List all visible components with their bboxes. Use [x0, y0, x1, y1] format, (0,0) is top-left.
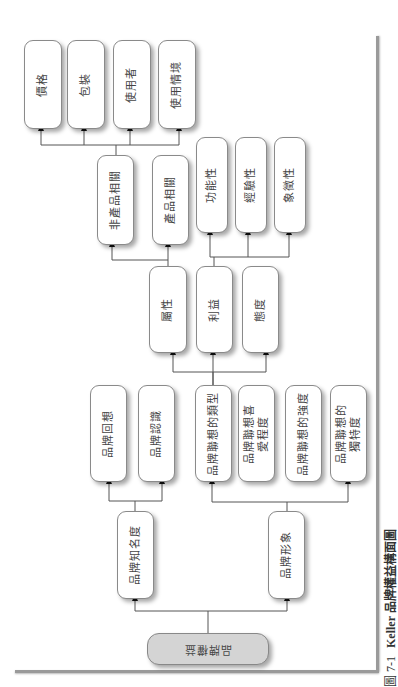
node-brand-awareness: 品牌知名度	[117, 511, 154, 599]
figure-title: Keller 品牌權益構面圖	[384, 529, 398, 648]
node-label: 使用者	[125, 67, 139, 103]
node-label: 象徵性	[283, 167, 297, 203]
node-label: 功能性	[205, 167, 219, 203]
node-brand-equity: 品牌權益	[147, 633, 269, 665]
node-association-strength: 品牌聯想的強度	[285, 385, 322, 482]
node-label: 品牌認識	[150, 410, 164, 458]
node-brand-recognition: 品牌認識	[138, 385, 175, 482]
node-brand-recall: 品牌回想	[90, 385, 127, 482]
node-label: 品牌回想	[102, 410, 116, 458]
node-association-uniqueness: 品牌聯想的 獨特度	[330, 385, 367, 482]
node-user: 使用者	[113, 40, 151, 129]
node-packaging: 包裝	[67, 40, 105, 129]
node-label: 經驗性	[244, 167, 258, 203]
node-label: 品牌形象	[280, 531, 294, 579]
node-association-type: 品牌聯想的類型	[195, 385, 232, 482]
figure-caption: 圖 7-1Keller 品牌權益構面圖	[381, 529, 398, 687]
node-label: 品牌聯想的強度	[297, 392, 311, 476]
node-usage-situation: 使用情境	[158, 40, 196, 129]
node-label: 品牌權益	[184, 642, 232, 656]
node-label: 包裝	[79, 73, 93, 97]
node-label: 產品相關	[164, 176, 178, 224]
node-label: 品牌聯想的 獨特度	[335, 404, 363, 464]
node-attitudes: 態度	[242, 266, 279, 353]
node-label: 品牌知名度	[129, 525, 143, 585]
node-label: 品牌聯想的類型	[207, 392, 221, 476]
node-label: 品牌聯想喜 愛程度	[243, 404, 271, 464]
node-attributes: 屬性	[149, 266, 187, 353]
figure-number: 圖 7-1	[384, 656, 398, 687]
node-product-related: 產品相關	[152, 155, 189, 245]
node-non-product-related: 非產品相關	[97, 155, 134, 245]
node-label: 態度	[254, 298, 268, 322]
node-label: 非產品相關	[109, 170, 123, 230]
node-functional: 功能性	[196, 137, 228, 233]
node-symbolic: 象徵性	[274, 137, 306, 233]
node-association-favorability: 品牌聯想喜 愛程度	[238, 385, 275, 482]
node-experiential: 經驗性	[235, 137, 267, 233]
node-price: 價格	[24, 40, 62, 129]
node-label: 價格	[36, 73, 50, 97]
node-benefits: 利益	[196, 266, 233, 353]
node-label: 屬性	[161, 298, 175, 322]
node-label: 使用情境	[170, 61, 184, 109]
node-label: 利益	[208, 298, 222, 322]
node-brand-image: 品牌形象	[268, 511, 305, 599]
